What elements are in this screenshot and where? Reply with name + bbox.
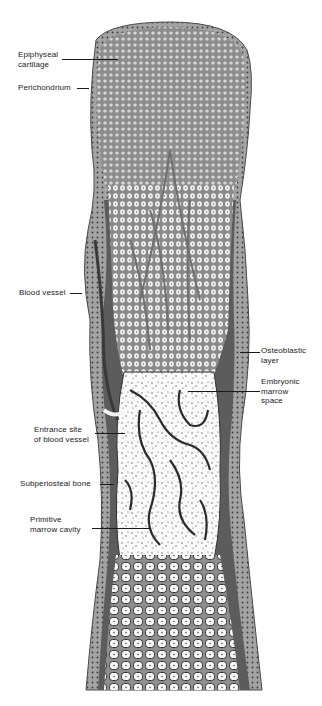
marrow-cavity-region — [116, 372, 220, 560]
label-primitive-marrow-cavity: Primitive marrow cavity — [30, 515, 81, 534]
lower-cartilage-region — [104, 555, 240, 690]
leader-subperiosteal-bone — [100, 484, 114, 485]
label-epiphyseal-cartilage: Epiphyseal cartilage — [18, 50, 58, 69]
label-subperiosteal-bone: Subperiosteal bone — [20, 479, 91, 489]
leader-perichondrium — [77, 88, 89, 89]
leader-epiphyseal-cartilage — [62, 59, 118, 60]
leader-osteoblastic-layer — [240, 352, 260, 353]
label-osteoblastic-layer: Osteoblastic layer — [261, 346, 306, 365]
leader-entrance-site-blood-vessel — [95, 433, 125, 434]
leader-embryonic-marrow-space — [188, 391, 260, 392]
label-blood-vessel: Blood vessel — [19, 288, 66, 298]
leader-primitive-marrow-cavity — [92, 528, 150, 529]
label-embryonic-marrow-space: Embryonic marrow space — [261, 377, 300, 406]
label-entrance-site-blood-vessel: Entrance site of blood vessel — [34, 425, 89, 444]
leader-blood-vessel — [70, 293, 82, 294]
columnar-cartilage-region — [108, 185, 234, 380]
label-perichondrium: Perichondrium — [18, 83, 71, 93]
